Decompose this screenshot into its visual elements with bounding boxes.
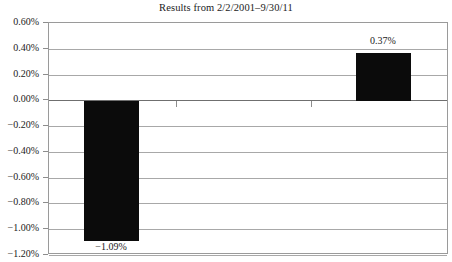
y-axis-tick-label: 0.40% [0, 43, 39, 53]
gridline [49, 255, 447, 256]
y-axis-tick-label: 0.00% [0, 94, 39, 104]
bar-positive [356, 53, 411, 101]
category-tick-1 [176, 101, 177, 107]
y-axis-tick-label: −1.00% [0, 223, 39, 233]
plot-area [48, 22, 448, 254]
y-axis-tick-label: −1.20% [0, 249, 39, 259]
y-axis-tick-label: 0.20% [0, 69, 39, 79]
bar-chart: Results from 2/2/2001–9/30/11 0.60%0.40%… [0, 0, 452, 262]
y-axis-tick-label: −0.60% [0, 172, 39, 182]
category-tick-2 [311, 101, 312, 107]
data-label-positive: 0.37% [355, 35, 411, 46]
data-label-negative: −1.09% [83, 241, 139, 252]
bar-negative [84, 101, 139, 241]
gridline [49, 49, 447, 50]
y-axis-tick-label: −0.80% [0, 197, 39, 207]
chart-title: Results from 2/2/2001–9/30/11 [0, 1, 452, 14]
y-axis-tick-mark [43, 254, 48, 255]
y-axis-tick-label: 0.60% [0, 17, 39, 27]
y-axis-tick-label: −0.20% [0, 120, 39, 130]
y-axis-tick-label: −0.40% [0, 146, 39, 156]
